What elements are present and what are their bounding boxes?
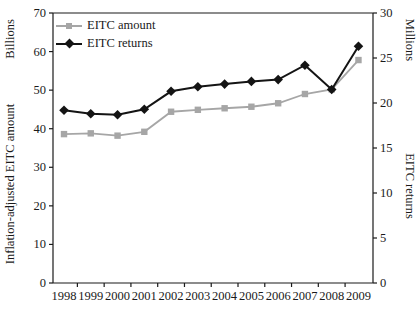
x-axis-year-label: 2005 — [239, 289, 264, 303]
right-axis-tick-label: 15 — [380, 141, 393, 155]
left-axis-title: Inflation-adjusted EITC amount — [3, 104, 18, 264]
x-axis-year-label: 2004 — [212, 289, 238, 303]
left-axis-tick-label: 20 — [34, 199, 47, 213]
square-marker — [88, 130, 94, 136]
x-axis-year-label: 2009 — [346, 289, 371, 303]
square-marker — [248, 104, 254, 110]
legend-label-eitc-amount: EITC amount — [87, 18, 155, 33]
series-line-eitc-amount — [64, 60, 358, 136]
x-axis-year-label: 2006 — [266, 289, 291, 303]
x-axis-year-label: 2008 — [319, 289, 344, 303]
diamond-marker — [193, 82, 203, 92]
diamond-marker — [273, 75, 283, 85]
right-axis-tick-label: 20 — [380, 96, 393, 110]
left-axis-unit-label: Billions — [3, 19, 18, 59]
square-marker — [61, 131, 67, 137]
x-axis-year-label: 1999 — [78, 289, 103, 303]
square-marker — [355, 57, 361, 63]
right-axis-unit-label: Millions — [402, 19, 417, 61]
x-axis-year-label: 1998 — [52, 289, 77, 303]
eitc-returns-sample — [56, 38, 82, 49]
square-marker — [275, 100, 281, 106]
legend-label-eitc-returns: EITC returns — [87, 36, 153, 51]
square-marker — [302, 91, 308, 97]
diamond-marker — [113, 110, 123, 120]
eitc-amount-sample — [56, 20, 82, 31]
diamond-marker — [220, 79, 230, 89]
right-axis-tick-label: 0 — [380, 276, 386, 290]
left-axis-tick-label: 50 — [34, 83, 47, 97]
right-axis-tick-label: 25 — [380, 51, 393, 65]
right-axis-tick-label: 5 — [380, 231, 386, 245]
x-axis-year-label: 2007 — [292, 289, 317, 303]
square-marker — [114, 132, 120, 138]
x-axis-year-label: 2001 — [132, 289, 157, 303]
square-marker — [195, 107, 201, 113]
left-axis-tick-label: 60 — [34, 45, 47, 59]
diamond-marker-icon — [65, 39, 75, 49]
right-axis-tick-label: 30 — [380, 6, 393, 20]
square-marker — [141, 129, 147, 135]
x-axis-year-label: 2003 — [185, 289, 210, 303]
diamond-marker — [86, 109, 96, 119]
square-marker — [221, 105, 227, 111]
left-axis-tick-label: 70 — [34, 6, 47, 20]
diamond-marker — [59, 105, 69, 115]
square-marker-icon — [66, 23, 72, 29]
left-axis-tick-label: 30 — [34, 160, 47, 174]
eitc-line-chart: 0102030405060700510152025301998199920002… — [0, 0, 420, 316]
legend-item-eitc-returns: EITC returns — [56, 36, 155, 51]
x-axis-year-label: 2002 — [159, 289, 184, 303]
x-axis-year-label: 2000 — [105, 289, 130, 303]
left-axis-tick-label: 40 — [34, 122, 47, 136]
legend-item-eitc-amount: EITC amount — [56, 18, 155, 33]
right-axis-title: EITC returns — [402, 153, 417, 219]
left-axis-tick-label: 0 — [40, 276, 46, 290]
legend: EITC amount EITC returns — [56, 18, 155, 51]
right-axis-tick-label: 10 — [380, 186, 393, 200]
diamond-marker — [354, 42, 364, 52]
series-line-eitc-returns — [64, 46, 358, 114]
left-axis-tick-label: 10 — [34, 237, 47, 251]
square-marker — [168, 109, 174, 115]
diamond-marker — [247, 77, 257, 87]
